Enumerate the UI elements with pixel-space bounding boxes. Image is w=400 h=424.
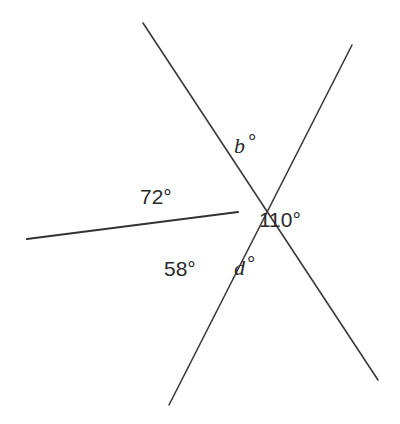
ray-left — [27, 212, 238, 239]
angle-label-110: 110° — [259, 208, 301, 231]
angle-label-58: 58° — [164, 257, 196, 280]
angle-label-72: 72° — [140, 185, 172, 208]
angle-diagram: b° 72° 110° 58° d° — [0, 0, 400, 424]
line-top-left-to-bottom-right — [143, 23, 378, 380]
angle-label-b: b° — [234, 130, 256, 158]
angle-label-d: d° — [234, 252, 255, 280]
